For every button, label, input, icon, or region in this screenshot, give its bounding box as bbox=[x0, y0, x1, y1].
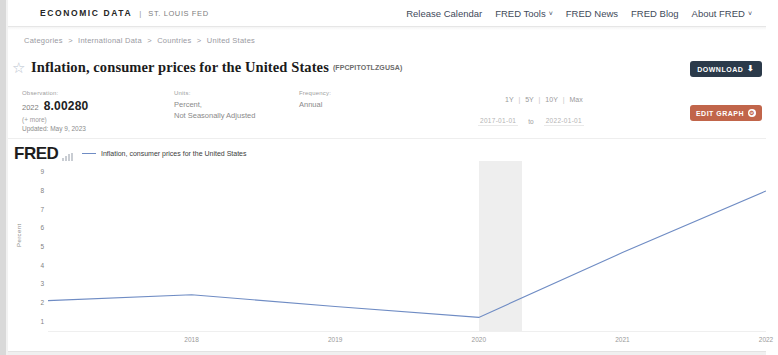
edit-graph-button-label: EDIT GRAPH bbox=[696, 110, 744, 117]
meta-observation: Observation: 2022 8.00280 (+ more) Updat… bbox=[22, 90, 174, 132]
edit-graph-button[interactable]: EDIT GRAPH ⚙ bbox=[690, 105, 762, 121]
breadcrumb-separator: > bbox=[68, 36, 73, 45]
nav-item-about-fred[interactable]: About FRED ˅ bbox=[692, 8, 752, 19]
download-button[interactable]: DOWNLOAD ⬇ bbox=[690, 61, 762, 77]
download-icon: ⬇ bbox=[747, 65, 755, 73]
nav-item-fred-blog[interactable]: FRED Blog bbox=[631, 8, 679, 19]
meta-observation-value-row: 2022 8.00280 bbox=[22, 99, 174, 113]
breadcrumb: Categories > International Data > Countr… bbox=[24, 36, 255, 45]
meta-units-line2: Not Seasonally Adjusted bbox=[174, 110, 299, 121]
breadcrumb-item-countries[interactable]: Countries bbox=[157, 36, 191, 45]
legend-color-swatch bbox=[82, 153, 96, 155]
nav-label: FRED Tools bbox=[495, 8, 546, 19]
range-presets: 1Y | 5Y | 10Y | Max bbox=[505, 96, 583, 103]
range-preset-max[interactable]: Max bbox=[569, 96, 582, 103]
nav-label: FRED News bbox=[566, 8, 618, 19]
end-date-input[interactable]: 2022-01-01 bbox=[544, 117, 584, 126]
x-axis-tick: 2020 bbox=[459, 337, 499, 344]
nav-item-fred-news[interactable]: FRED News bbox=[566, 8, 618, 19]
range-preset-10y[interactable]: 10Y bbox=[545, 96, 557, 103]
date-range-row: 2017-01-01 to 2022-01-01 bbox=[478, 117, 584, 126]
legend-label: Inflation, consumer prices for the Unite… bbox=[101, 150, 247, 157]
brand-subtitle: ST. LOUIS FED bbox=[148, 9, 208, 18]
bar-chart-icon bbox=[62, 153, 74, 161]
x-axis-tick: 2019 bbox=[315, 337, 355, 344]
x-axis-tick: 2022 bbox=[746, 337, 778, 344]
chart-legend: Inflation, consumer prices for the Unite… bbox=[82, 150, 247, 157]
series-id: (FPCPITOTLZGUSA) bbox=[333, 64, 403, 71]
range-separator: | bbox=[518, 96, 520, 103]
breadcrumb-item-international-data[interactable]: International Data bbox=[78, 36, 142, 45]
page-title-row: ☆ Inflation, consumer prices for the Uni… bbox=[12, 59, 402, 76]
range-separator: | bbox=[563, 96, 565, 103]
meta-units: Units: Percent, Not Seasonally Adjusted bbox=[174, 90, 299, 132]
meta-observation-value: 8.00280 bbox=[44, 99, 89, 113]
page-title: Inflation, consumer prices for the Unite… bbox=[31, 59, 329, 76]
site-brand[interactable]: ECONOMIC DATA | ST. LOUIS FED bbox=[40, 8, 209, 18]
x-axis-tick: 2021 bbox=[602, 337, 642, 344]
date-range-to-label: to bbox=[528, 118, 533, 125]
breadcrumb-item-united-states[interactable]: United States bbox=[207, 36, 255, 45]
meta-updated: Updated: May 9, 2023 bbox=[22, 125, 174, 132]
graph-card: FRED Inflation, consumer prices for the … bbox=[8, 138, 766, 352]
range-preset-1y[interactable]: 1Y bbox=[505, 96, 513, 103]
site-header: ECONOMIC DATA | ST. LOUIS FED Release Ca… bbox=[8, 0, 766, 26]
chevron-down-icon: ˅ bbox=[549, 10, 553, 17]
chevron-down-icon: ˅ bbox=[748, 10, 752, 17]
main-nav: Release Calendar FRED Tools ˅ FRED News … bbox=[406, 8, 752, 19]
breadcrumb-item-categories[interactable]: Categories bbox=[24, 36, 63, 45]
meta-observation-label: Observation: bbox=[22, 90, 174, 96]
brand-separator: | bbox=[139, 9, 141, 18]
nav-item-fred-tools[interactable]: FRED Tools ˅ bbox=[495, 8, 553, 19]
header-shadow bbox=[8, 27, 766, 30]
range-separator: | bbox=[539, 96, 541, 103]
nav-label: Release Calendar bbox=[406, 8, 482, 19]
series-meta: Observation: 2022 8.00280 (+ more) Updat… bbox=[22, 90, 419, 132]
meta-frequency-value: Annual bbox=[299, 99, 419, 110]
x-axis-tick: 2018 bbox=[172, 337, 212, 344]
meta-units-line1: Percent, bbox=[174, 99, 299, 110]
meta-frequency: Frequency: Annual bbox=[299, 90, 419, 132]
gear-icon: ⚙ bbox=[748, 109, 756, 117]
range-preset-5y[interactable]: 5Y bbox=[525, 96, 533, 103]
meta-units-label: Units: bbox=[174, 90, 299, 96]
breadcrumb-separator: > bbox=[147, 36, 152, 45]
download-button-label: DOWNLOAD bbox=[697, 66, 743, 73]
meta-frequency-label: Frequency: bbox=[299, 90, 419, 96]
nav-label: About FRED bbox=[692, 8, 745, 19]
meta-observation-year: 2022 bbox=[22, 103, 39, 112]
start-date-input[interactable]: 2017-01-01 bbox=[478, 117, 518, 126]
chart-series-svg bbox=[8, 161, 766, 353]
nav-label: FRED Blog bbox=[631, 8, 679, 19]
meta-more-link[interactable]: (+ more) bbox=[22, 116, 174, 123]
star-icon[interactable]: ☆ bbox=[12, 60, 25, 75]
series-line-inflation bbox=[48, 191, 766, 317]
breadcrumb-separator: > bbox=[197, 36, 202, 45]
brand-title: ECONOMIC DATA bbox=[40, 8, 132, 18]
nav-item-release-calendar[interactable]: Release Calendar bbox=[406, 8, 482, 19]
chart-plot-area[interactable]: Percent 987654321 20182019202020212022 bbox=[8, 161, 766, 353]
